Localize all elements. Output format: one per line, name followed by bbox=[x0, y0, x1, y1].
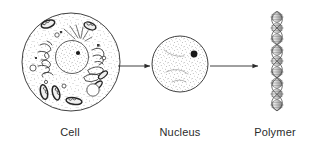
nucleus-illustration bbox=[152, 36, 208, 92]
nucleolus bbox=[191, 51, 198, 58]
label-nucleus: Nucleus bbox=[140, 126, 220, 138]
figure-canvas: Cell Nucleus Polymer bbox=[0, 0, 310, 149]
polymer-double-helix bbox=[270, 11, 284, 111]
label-cell: Cell bbox=[0, 126, 140, 138]
cell-nucleus bbox=[56, 41, 89, 74]
label-polymer: Polymer bbox=[240, 126, 310, 138]
cell-illustration bbox=[22, 13, 120, 111]
nuclear-envelope bbox=[152, 36, 208, 92]
cell-nucleolus bbox=[76, 51, 80, 55]
